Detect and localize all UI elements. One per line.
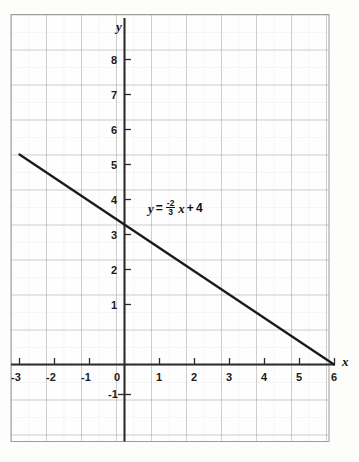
y-axis-label: y (116, 20, 122, 33)
y-tick-label-2: 2 (111, 265, 117, 276)
equation-constant: 4 (196, 202, 203, 214)
equation-lhs: y (148, 202, 154, 215)
x-tick-label-1: 1 (156, 372, 162, 383)
x-tick-label--1: -1 (81, 372, 91, 383)
y-tick-label-7: 7 (111, 90, 117, 101)
y-tick-label-1: 1 (111, 300, 117, 311)
major-gridlines (11, 15, 329, 442)
equation-fraction: -2 3 (166, 199, 176, 218)
x-tick-label-3: 3 (226, 372, 232, 383)
coordinate-plane-figure: -3 -2 -1 0 1 2 3 4 5 6 8 7 6 5 4 3 2 1 -… (0, 0, 359, 462)
y-tick-label-3: 3 (111, 230, 117, 241)
y-tick-label-5: 5 (111, 160, 117, 171)
equation-plus: + (187, 202, 194, 214)
equation-variable: x (178, 202, 185, 215)
x-tick-label-4: 4 (261, 372, 267, 383)
graph-svg (0, 0, 359, 462)
x-tick-label-5: 5 (296, 372, 302, 383)
fraction-numerator: -2 (166, 199, 176, 208)
equation-equals: = (156, 202, 163, 214)
x-tick-label--2: -2 (46, 372, 56, 383)
equation-annotation: y = -2 3 x + 4 (148, 199, 203, 218)
y-tick-label-6: 6 (111, 125, 117, 136)
x-tick-label--3: -3 (11, 372, 21, 383)
x-tick-label-2: 2 (191, 372, 197, 383)
x-axis-label: x (342, 355, 349, 368)
y-tick-label-8: 8 (111, 55, 117, 66)
y-tick-label--1: -1 (108, 389, 118, 400)
x-tick-label-6: 6 (331, 372, 337, 383)
x-tick-label-0: 0 (114, 372, 120, 383)
fraction-denominator: 3 (167, 208, 174, 217)
y-tick-label-4: 4 (111, 195, 117, 206)
